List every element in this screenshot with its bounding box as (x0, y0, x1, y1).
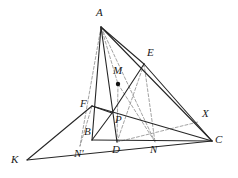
point-label-A: A (96, 7, 103, 18)
point-label-N: N (150, 144, 157, 155)
point-label-M: M (113, 65, 122, 76)
point-marker-M (116, 82, 120, 86)
point-label-F: F (80, 98, 87, 109)
segment-B-P (92, 113, 112, 140)
point-label-C: C (215, 134, 222, 145)
point-label-B: B (84, 126, 91, 137)
dashed-segments-layer (80, 27, 198, 146)
segment-A-E (101, 27, 144, 64)
segment-E-C (144, 64, 212, 141)
segment-E-N (144, 64, 155, 142)
segment-A-B (92, 27, 101, 140)
point-label-K: K (11, 154, 18, 165)
solid-segments-layer (27, 27, 212, 160)
point-label-E: E (147, 47, 154, 58)
segment-M-N (118, 84, 155, 142)
point-label-Np: N' (74, 148, 84, 159)
geometry-figure: AEMFXPBDNCN'K (0, 0, 238, 178)
segment-F-P (92, 106, 112, 113)
segment-B-C (92, 140, 212, 141)
point-markers-layer (116, 82, 120, 86)
point-label-D: D (112, 144, 120, 155)
point-label-X: X (202, 108, 209, 119)
point-label-P: P (115, 114, 122, 125)
